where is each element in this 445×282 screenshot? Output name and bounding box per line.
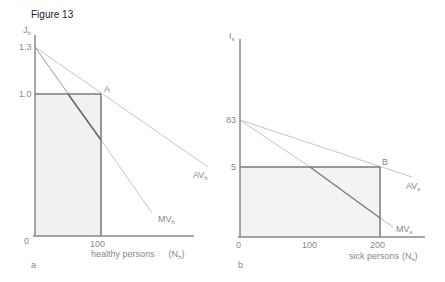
point-b-label: B <box>382 157 388 167</box>
y-axis-label-a: Jh <box>23 25 31 36</box>
mv-s-line-lower <box>380 218 393 227</box>
y-axis-label-b: Is <box>229 31 235 42</box>
mv-h-line-lower <box>101 140 152 213</box>
tick-100-b: 100 <box>302 240 317 250</box>
tick-100-a: 100 <box>90 239 105 249</box>
tick-83: 83 <box>226 115 236 125</box>
tick-5: 5 <box>231 162 236 172</box>
mv-h-label: MVh <box>158 214 175 225</box>
panel-b: Is 83 5 0 100 200 B AVs MVs sick persons… <box>226 31 425 270</box>
figure-canvas: Jh 1.3 1.0 0 100 A AVh MVh healthy perso… <box>0 0 445 282</box>
tick-0-a: 0 <box>24 236 29 246</box>
shaded-rectangle-a <box>35 94 101 236</box>
av-s-label: AVs <box>406 181 420 192</box>
panel-a: Jh 1.3 1.0 0 100 A AVh MVh healthy perso… <box>19 25 208 270</box>
tick-0-b: 0 <box>236 240 241 250</box>
panel-letter-a: a <box>31 260 36 270</box>
mv-s-label: MVs <box>396 224 413 235</box>
av-h-label: AVh <box>193 170 208 181</box>
x-axis-label-b: sick persons(Ns) <box>349 251 418 262</box>
x-axis-label-a: healthy persons(Nh) <box>91 249 184 260</box>
mv-s-line-upper <box>240 120 310 167</box>
tick-1-3: 1.3 <box>19 42 32 52</box>
tick-200-b: 200 <box>370 240 385 250</box>
tick-1-0: 1.0 <box>19 89 32 99</box>
panel-letter-b: b <box>238 260 243 270</box>
point-a-label: A <box>104 84 110 94</box>
